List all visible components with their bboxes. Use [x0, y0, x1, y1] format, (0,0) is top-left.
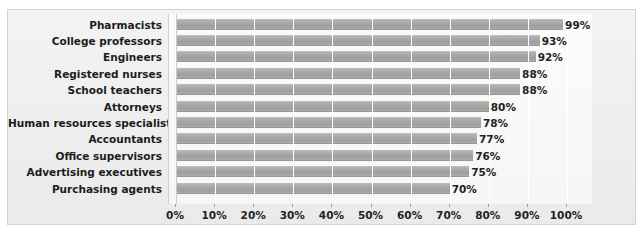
x-tick-label: 60%: [397, 209, 422, 221]
x-tick-mark: [566, 204, 567, 207]
x-tick-label: 70%: [436, 209, 461, 221]
x-tick-mark: [253, 204, 254, 207]
chart-frame: PharmacistsCollege professorsEngineersRe…: [7, 9, 636, 225]
bar-value-label: 78%: [483, 115, 508, 131]
bar-value-label: 76%: [475, 148, 500, 164]
x-tick-mark: [410, 204, 411, 207]
x-tick-mark: [371, 204, 372, 207]
category-label: College professors: [8, 33, 162, 49]
x-tick-label: 100%: [550, 209, 582, 221]
x-tick-label: 10%: [202, 209, 227, 221]
x-axis: 0%10%20%30%40%50%60%70%80%90%100%: [8, 204, 636, 225]
category-label: Human resources specialists: [8, 115, 162, 131]
bar-value-label: 80%: [491, 99, 516, 115]
bar-value-label: 92%: [538, 49, 563, 65]
x-tick-label: 20%: [241, 209, 266, 221]
bar-value-label: 93%: [542, 33, 567, 49]
category-label: Registered nurses: [8, 66, 162, 82]
bar-value-label: 88%: [522, 82, 547, 98]
category-axis-labels: PharmacistsCollege professorsEngineersRe…: [8, 14, 162, 204]
x-tick-mark: [331, 204, 332, 207]
category-label: Advertising executives: [8, 164, 162, 180]
category-label: Office supervisors: [8, 148, 162, 164]
x-tick-mark: [175, 204, 176, 207]
bar-value-labels: 99%93%92%88%88%80%78%77%76%75%70%: [168, 14, 636, 204]
x-tick-label: 40%: [319, 209, 344, 221]
bar-value-label: 75%: [471, 164, 496, 180]
category-label: Engineers: [8, 49, 162, 65]
x-tick-label: 0%: [166, 209, 184, 221]
x-tick-mark: [527, 204, 528, 207]
category-label: Accountants: [8, 131, 162, 147]
category-label: Purchasing agents: [8, 181, 162, 197]
category-label: School teachers: [8, 82, 162, 98]
x-tick-mark: [292, 204, 293, 207]
x-tick-mark: [449, 204, 450, 207]
x-tick-label: 30%: [280, 209, 305, 221]
x-tick-label: 50%: [358, 209, 383, 221]
bar-value-label: 77%: [479, 131, 504, 147]
x-tick-label: 90%: [514, 209, 539, 221]
x-tick-label: 80%: [475, 209, 500, 221]
bar-value-label: 88%: [522, 66, 547, 82]
bar-value-label: 70%: [452, 181, 477, 197]
category-label: Pharmacists: [8, 17, 162, 33]
bar-value-label: 99%: [565, 17, 590, 33]
x-tick-mark: [214, 204, 215, 207]
category-label: Attorneys: [8, 99, 162, 115]
x-tick-mark: [488, 204, 489, 207]
